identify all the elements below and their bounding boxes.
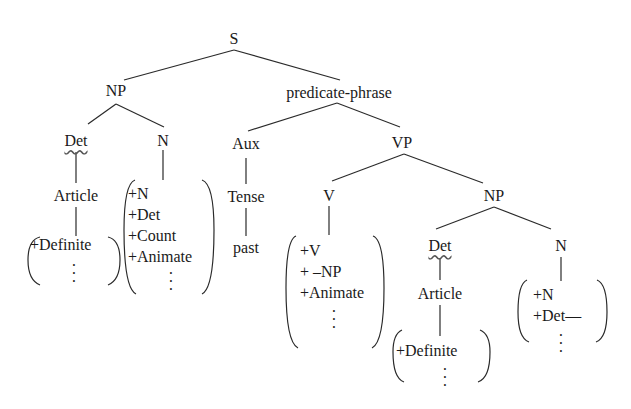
feature-bundle-n-object: +N +Det— xyxy=(533,284,581,326)
feature: +Definite xyxy=(396,340,457,361)
node-det-subject: Det xyxy=(64,132,87,150)
feature: +Det— xyxy=(533,305,581,326)
ellipsis-icon: ··· xyxy=(442,366,447,390)
node-s: S xyxy=(230,30,239,48)
feature: +N xyxy=(128,183,192,204)
node-aux: Aux xyxy=(232,135,260,153)
feature-bundle-n-subject: +N +Det +Count +Animate xyxy=(128,183,192,267)
feature-bundle-article-object: +Definite xyxy=(396,340,457,361)
node-tense: Tense xyxy=(227,188,264,206)
ellipsis-icon: ··· xyxy=(168,270,173,294)
node-vp: VP xyxy=(392,134,412,152)
node-n-object: N xyxy=(555,237,567,255)
feature: +Animate xyxy=(128,246,192,267)
node-predicate-phrase: predicate-phrase xyxy=(286,84,392,102)
feature-bundle-v: +V + –NP +Animate xyxy=(300,240,364,303)
ellipsis-icon: ··· xyxy=(558,332,563,356)
feature: +Animate xyxy=(300,282,364,303)
node-np-subject: NP xyxy=(106,82,126,100)
node-article-object: Article xyxy=(418,285,462,303)
node-past: past xyxy=(233,239,259,257)
feature: +N xyxy=(533,284,581,305)
node-np-object: NP xyxy=(484,187,504,205)
feature: + –NP xyxy=(300,261,364,282)
ellipsis-icon: ··· xyxy=(331,308,336,332)
node-n-subject: N xyxy=(157,132,169,150)
feature: +Det xyxy=(128,204,192,225)
feature: +Count xyxy=(128,225,192,246)
node-article-subject: Article xyxy=(54,187,98,205)
node-det-object: Det xyxy=(428,237,451,255)
feature: +Definite xyxy=(30,234,91,255)
feature: +V xyxy=(300,240,364,261)
node-v: V xyxy=(323,187,335,205)
ellipsis-icon: ··· xyxy=(71,262,76,286)
feature-bundle-article-subject: +Definite xyxy=(30,234,91,255)
